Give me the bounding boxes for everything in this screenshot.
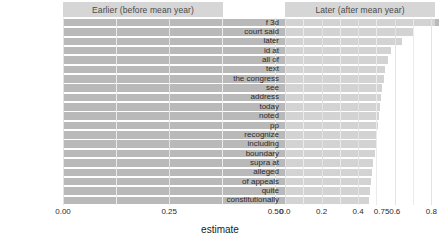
bar	[285, 94, 381, 101]
gridline	[285, 18, 286, 205]
bar-row	[63, 178, 223, 185]
bar	[285, 56, 388, 63]
bar-row	[63, 122, 223, 129]
x-axis-tick-label: 0.25	[161, 208, 177, 216]
bar	[285, 103, 380, 110]
y-axis-tick-label: pp	[270, 122, 279, 130]
y-axis-tick-label: noted	[259, 112, 279, 120]
bar	[285, 84, 382, 91]
facet-strip-later: Later (after mean year)	[285, 2, 435, 17]
bar	[285, 187, 370, 194]
bar	[285, 131, 376, 138]
y-axis-tick-label: address	[251, 93, 279, 101]
bar-group-earlier	[63, 18, 223, 205]
bar	[285, 150, 375, 157]
bar	[285, 159, 373, 166]
x-axis-tick-label: 0.8	[426, 208, 437, 216]
y-axis-tick-label: court said	[244, 28, 279, 36]
y-axis-tick-label: recognize	[244, 131, 279, 139]
bar-row	[63, 94, 223, 101]
y-axis-tick-label: later	[263, 37, 279, 45]
gridline	[322, 18, 323, 205]
gridline	[431, 18, 432, 205]
bar	[285, 140, 376, 147]
bar	[285, 66, 385, 73]
x-axis-tick-label: 0.0	[279, 208, 290, 216]
x-axis-tick-label: 0.6	[389, 208, 400, 216]
bar-row	[63, 56, 223, 63]
gridline-minor	[376, 18, 377, 205]
bar-row	[63, 84, 223, 91]
bar-row	[63, 169, 223, 176]
gridline	[63, 18, 64, 205]
bar-row	[63, 38, 223, 45]
y-axis-tick-label: all of	[262, 56, 279, 64]
y-axis-tick-label: including	[247, 140, 279, 148]
y-axis-tick-label: alleged	[253, 168, 279, 176]
bar	[285, 75, 384, 82]
bar	[285, 112, 379, 119]
y-axis-tick-label: today	[259, 103, 279, 111]
bar-row	[63, 47, 223, 54]
gridline-minor	[413, 18, 414, 205]
gridline-minor	[303, 18, 304, 205]
x-axis-tick-label: 0.00	[55, 208, 71, 216]
gridline	[358, 18, 359, 205]
x-axis-tick-label: 0.75	[374, 208, 390, 216]
bar-row	[63, 197, 223, 204]
facet-strip-earlier: Earlier (before mean year)	[63, 2, 223, 17]
bar-row	[63, 159, 223, 166]
bar-row	[63, 187, 223, 194]
facet-earlier: Earlier (before mean year) 1stoughtadmit…	[0, 0, 224, 240]
y-axis-tick-label: text	[266, 65, 279, 73]
x-axis-tick-label: 0.2	[316, 208, 327, 216]
gridline-minor	[116, 18, 117, 205]
y-axis-tick-label: constitutionally	[227, 196, 279, 204]
bar-row	[63, 28, 223, 35]
y-axis-tick-label: quite	[262, 187, 279, 195]
y-axis-tick-label: f 3d	[266, 19, 279, 27]
bar-row	[63, 19, 223, 26]
x-axis-title: estimate	[0, 224, 440, 235]
chart-root: Earlier (before mean year) 1stoughtadmit…	[0, 0, 440, 240]
bar-row	[63, 66, 223, 73]
facet-later: Later (after mean year) f 3dcourt saidla…	[224, 0, 440, 240]
gridline	[395, 18, 396, 205]
plot-area-earlier	[63, 18, 223, 205]
bar-row	[63, 103, 223, 110]
y-axis-tick-label: boundary	[246, 150, 279, 158]
bar-row	[63, 140, 223, 147]
bar	[285, 169, 372, 176]
x-axis-tick-label: 0.4	[353, 208, 364, 216]
bar	[285, 47, 391, 54]
gridline	[169, 18, 170, 205]
bar-row	[63, 112, 223, 119]
y-axis-tick-label: supra at	[250, 159, 279, 167]
plot-area-later	[285, 18, 435, 205]
gridline-minor	[340, 18, 341, 205]
y-axis-tick-label: of appeals	[242, 178, 279, 186]
bar-row	[63, 131, 223, 138]
bar-row	[63, 75, 223, 82]
y-axis-tick-label: id at	[264, 47, 279, 55]
y-axis-tick-label: see	[266, 84, 279, 92]
bar-row	[63, 150, 223, 157]
bar	[285, 122, 378, 129]
y-axis-tick-label: the congress	[233, 75, 279, 83]
bar	[285, 197, 369, 204]
